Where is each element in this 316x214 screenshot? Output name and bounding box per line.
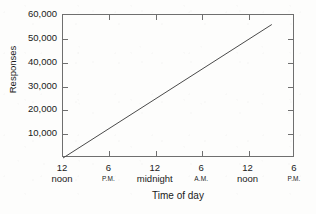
x-axis-tick-label-group: 6P.M. — [102, 162, 115, 185]
x-axis-tick-sublabel: noon — [51, 173, 72, 185]
x-axis-tick-mark-top — [156, 15, 157, 20]
y-axis-tick-label: 10,000 — [0, 128, 57, 138]
x-axis-tick-label: 6 — [102, 162, 115, 173]
chart-figure: Responses 60,00050,00040,00030,00020,000… — [0, 0, 316, 214]
y-axis-tick-label: 20,000 — [0, 105, 57, 115]
y-axis-title: Responses — [7, 39, 18, 101]
data-series-layer — [63, 15, 295, 158]
y-axis-tick-label: 60,000 — [0, 9, 57, 19]
x-axis-tick-label-group: 12noon — [51, 162, 72, 185]
plot-area — [62, 14, 294, 157]
x-axis-tick-label: 12 — [237, 162, 258, 173]
x-axis-tick-sublabel: A.M. — [194, 173, 208, 185]
x-axis-tick-mark — [249, 151, 250, 156]
y-axis-tick-mark — [63, 110, 68, 111]
x-axis-title: Time of day — [62, 190, 294, 201]
x-axis-tick-label-group: 12noon — [237, 162, 258, 185]
y-axis-tick-mark — [63, 134, 68, 135]
x-axis-tick-mark-top — [202, 15, 203, 20]
x-axis-tick-label: 6 — [288, 162, 301, 173]
x-axis-tick-mark — [202, 151, 203, 156]
y-axis-tick-mark-right — [288, 39, 293, 40]
x-axis-tick-sublabel: midnight — [137, 173, 173, 185]
y-axis-tick-mark-right — [288, 134, 293, 135]
x-axis-tick-sublabel: P.M. — [288, 173, 301, 185]
y-axis-tick-mark — [63, 87, 68, 88]
x-axis-tick-mark — [109, 151, 110, 156]
x-axis-tick-mark-top — [109, 15, 110, 20]
y-axis-tick-mark — [63, 39, 68, 40]
y-axis-tick-mark-right — [288, 63, 293, 64]
data-line-cumulative-responses — [63, 25, 272, 158]
x-axis-tick-label-group: 6A.M. — [194, 162, 208, 185]
y-axis-tick-mark-right — [288, 87, 293, 88]
x-axis-tick-label-group: 6P.M. — [288, 162, 301, 185]
x-axis-tick-label: 6 — [194, 162, 208, 173]
x-axis-tick-label: 12 — [137, 162, 173, 173]
y-axis-tick-mark — [63, 63, 68, 64]
x-axis-tick-label: 12 — [51, 162, 72, 173]
x-axis-tick-sublabel: P.M. — [102, 173, 115, 185]
x-axis-tick-mark-top — [249, 15, 250, 20]
x-axis-tick-sublabel: noon — [237, 173, 258, 185]
y-axis-tick-mark-right — [288, 110, 293, 111]
x-axis-tick-mark — [156, 151, 157, 156]
x-axis-tick-label-group: 12midnight — [137, 162, 173, 185]
